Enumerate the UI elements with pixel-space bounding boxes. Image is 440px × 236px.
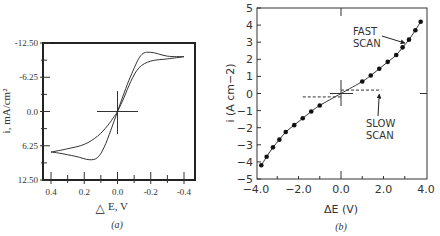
fast-scan-arrow-icon: [382, 36, 405, 43]
fast-scan-point: [407, 37, 412, 42]
chart-b-ytick-label: −1: [237, 105, 253, 118]
fast-scan-label: SCAN: [353, 38, 381, 49]
chart-b-ytick-label: 2: [246, 53, 253, 66]
chart-b-ytick-label: −2: [237, 122, 253, 135]
chart-a-xtick-label: -0.2: [144, 187, 158, 197]
fast-scan-point: [317, 103, 322, 108]
fast-scan-curve: [261, 22, 420, 166]
chart-a-x-axis: 0.40.20.0-0.2-0.4: [45, 172, 191, 197]
chart-b-ytick-label: 0: [246, 88, 253, 101]
fast-scan-point: [368, 73, 373, 78]
fast-scan-point: [413, 28, 418, 33]
chart-a-x-label: △ E, V: [95, 200, 128, 215]
fast-scan-point: [271, 145, 276, 150]
fast-scan-point: [277, 137, 282, 142]
slow-scan-label: SLOW: [366, 118, 395, 129]
slow-scan-arrow-icon: [378, 94, 379, 116]
chart-a-xtick-label: -0.4: [177, 187, 192, 197]
chart-b-ytick-label: −4: [237, 156, 253, 169]
chart-a-y-axis: -12.50-6.250.06.2512.50: [15, 38, 50, 185]
fast-scan-point: [418, 19, 423, 24]
chart-a-xtick-label: 0.2: [79, 187, 90, 197]
fast-scan-point: [385, 60, 390, 65]
chart-b-ytick-label: −3: [237, 139, 253, 152]
fast-scan-point: [264, 154, 269, 159]
fast-scan-point: [300, 116, 305, 121]
chart-b-series: [259, 19, 423, 167]
chart-b-ytick-label: 4: [246, 19, 253, 32]
fast-scan-point: [309, 109, 314, 114]
chart-b-xtick-label: 2.0: [375, 183, 393, 196]
fast-scan-point: [259, 163, 264, 168]
fast-scan-point: [394, 53, 399, 58]
chart-a-ytick-label: 0.0: [27, 107, 39, 117]
slow-scan-label: SCAN: [366, 130, 394, 141]
chart-b-panel-label: (b): [335, 221, 347, 233]
chart-a-panel-label: (a): [111, 219, 123, 231]
chart-a: -12.50-6.250.06.2512.50 0.40.20.0-0.2-0.…: [0, 38, 195, 231]
chart-b-xtick-label: 0.0: [332, 183, 350, 196]
chart-b-ytick-label: 5: [246, 2, 253, 15]
chart-a-y-label: i, mA/cm²: [0, 88, 12, 134]
chart-a-xtick-label: 0.0: [112, 187, 124, 197]
chart-b-annotations: FASTSCANSLOWSCAN: [353, 26, 405, 141]
chart-a-ytick-label: 6.25: [22, 141, 38, 151]
chart-a-xtick-label: 0.4: [45, 187, 57, 197]
fast-scan-label: FAST: [353, 26, 378, 37]
chart-b-x-label: ΔE (V): [324, 203, 358, 216]
fast-scan-point: [283, 130, 288, 135]
fast-scan-point: [400, 45, 405, 50]
chart-b-xtick-label: −2.0: [285, 183, 312, 196]
chart-a-ytick-label: 12.50: [18, 175, 39, 185]
chart-a-x-label-text: E, V: [108, 200, 128, 212]
chart-b-origin-crosshair: [330, 8, 427, 179]
fast-scan-point: [360, 79, 365, 84]
chart-a-ytick-label: -12.50: [15, 38, 39, 48]
figure: -12.50-6.250.06.2512.50 0.40.20.0-0.2-0.…: [0, 0, 440, 236]
chart-b-ytick-label: 3: [246, 36, 253, 49]
chart-b-ytick-label: 1: [246, 70, 253, 83]
chart-b-xtick-label: 4.0: [417, 183, 435, 196]
fast-scan-point: [292, 123, 297, 128]
chart-b: 543210−1−2−3−4−5 −4.0−2.00.02.04.0 FASTS…: [224, 2, 435, 233]
chart-b-y-label: i (A cm−2): [224, 63, 237, 122]
chart-b-xtick-label: −4.0: [243, 183, 270, 196]
chart-a-origin-crosshair: [97, 91, 138, 134]
chart-a-ytick-label: -6.25: [19, 72, 38, 82]
fast-scan-point: [377, 66, 382, 71]
delta-symbol-icon: △: [95, 201, 105, 215]
